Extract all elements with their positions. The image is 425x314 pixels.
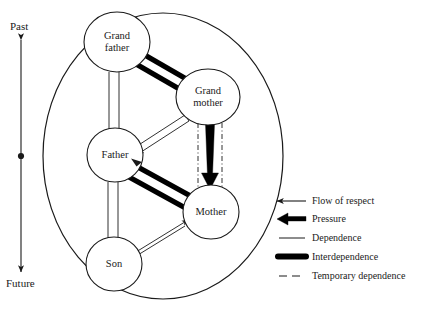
node-grandfather[interactable]: [84, 12, 150, 72]
legend-label-temporary-dependence: Temporary dependence: [312, 270, 405, 281]
legend-label-interdependence: Interdependence: [312, 251, 378, 262]
family-boundary-ellipse: [43, 13, 283, 299]
family-relations-diagram: Past Future Grand father Grand mother Fa…: [0, 0, 425, 314]
edge-son-mother-dependence: [133, 220, 188, 258]
time-axis-past-label: Past: [10, 20, 28, 32]
node-son[interactable]: [86, 237, 142, 291]
node-grandmother[interactable]: [176, 69, 240, 125]
edge-grandmother-mother-pressure: [202, 124, 219, 190]
legend-label-pressure: Pressure: [312, 213, 346, 224]
legend-label-dependence: Dependence: [312, 232, 361, 243]
diagram-canvas: [0, 0, 425, 314]
node-father[interactable]: [87, 128, 143, 182]
time-axis: [18, 40, 24, 272]
time-axis-future-label: Future: [6, 277, 35, 289]
legend-symbol-pressure: [277, 213, 306, 225]
legend-symbols: [277, 201, 306, 276]
legend-label-flow-of-respect: Flow of respect: [312, 195, 374, 206]
node-mother[interactable]: [183, 185, 239, 239]
time-axis-present-dot: [18, 153, 24, 159]
